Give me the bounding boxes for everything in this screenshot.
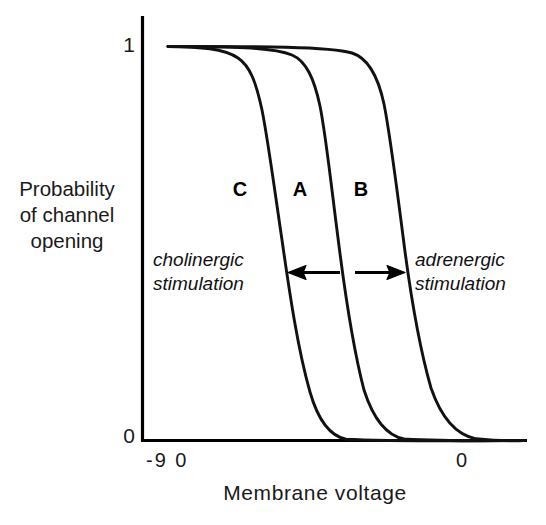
curve-A: [168, 47, 524, 441]
adrenergic-annotation-line-2: stimulation: [415, 272, 543, 296]
cholinergic-annotation-line-2: stimulation: [153, 272, 271, 296]
cholinergic-annotation: cholinergic stimulation: [153, 248, 271, 296]
curve-label-c: C: [228, 178, 252, 201]
x-axis-tick-left: -9 0: [146, 449, 188, 472]
curve-B: [168, 46, 524, 440]
right-arrow-icon: [355, 266, 405, 280]
adrenergic-annotation-line-1: adrenergic: [415, 248, 543, 272]
y-axis-title-line-3: opening: [0, 228, 134, 254]
x-axis-tick-right: 0: [456, 449, 467, 472]
adrenergic-annotation: adrenergic stimulation: [415, 248, 543, 296]
curve-label-b: B: [349, 178, 373, 201]
y-axis-title-line-2: of channel: [0, 202, 134, 228]
curve-label-a: A: [288, 178, 312, 201]
y-axis-title-line-1: Probability: [0, 176, 134, 202]
x-axis-title: Membrane voltage: [150, 481, 480, 505]
curve-C: [168, 47, 524, 441]
cholinergic-annotation-line-1: cholinergic: [153, 248, 271, 272]
y-axis-title: Probability of channel opening: [0, 176, 134, 254]
channel-opening-probability-figure: 1 0 -9 0 0 Membrane voltage Probability …: [0, 0, 546, 525]
y-axis-tick-bottom: 0: [113, 424, 135, 448]
y-axis-tick-top: 1: [113, 33, 135, 57]
left-arrow-icon: [288, 266, 340, 280]
